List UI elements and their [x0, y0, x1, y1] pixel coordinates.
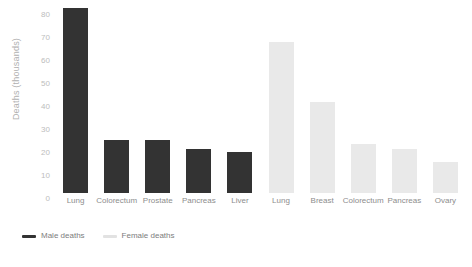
y-axis-ticks: 80706050403020100 [28, 15, 50, 199]
bar-slot [137, 15, 178, 193]
x-axis-labels: LungColorectumProstatePancreasLiverLungB… [55, 197, 466, 211]
bar-chart: Deaths (thousands) 80706050403020100 Lun… [0, 0, 472, 267]
legend-label: Male deaths [41, 232, 85, 240]
legend-item[interactable]: Female deaths [103, 232, 175, 240]
x-axis-label: Colorectum [96, 197, 137, 211]
y-axis-tick: 0 [28, 195, 50, 203]
legend-item[interactable]: Male deaths [22, 232, 85, 240]
bar-slot [260, 15, 301, 193]
bar-slot [219, 15, 260, 193]
x-axis-label: Pancreas [178, 197, 219, 211]
y-axis-tick: 60 [28, 57, 50, 65]
x-axis-label: Colorectum [343, 197, 384, 211]
x-axis-label: Prostate [137, 197, 178, 211]
bar[interactable] [63, 8, 88, 193]
y-axis-tick: 70 [28, 34, 50, 42]
bar-slot [178, 15, 219, 193]
bar[interactable] [186, 149, 211, 194]
y-axis-title: Deaths (thousands) [11, 19, 21, 139]
bar-slot [55, 15, 96, 193]
bar[interactable] [392, 149, 417, 194]
bar[interactable] [351, 144, 376, 193]
bar-slot [425, 15, 466, 193]
bar-group [55, 15, 466, 193]
bar[interactable] [145, 140, 170, 193]
x-axis-label: Lung [55, 197, 96, 211]
y-axis-tick: 30 [28, 126, 50, 134]
bar[interactable] [269, 42, 294, 193]
x-axis-label: Lung [260, 197, 301, 211]
chart-legend: Male deathsFemale deaths [22, 232, 175, 240]
bar-slot [343, 15, 384, 193]
y-axis-tick: 50 [28, 80, 50, 88]
legend-swatch-icon [103, 235, 117, 238]
x-axis-label: Liver [219, 197, 260, 211]
x-axis-label: Pancreas [384, 197, 425, 211]
bar[interactable] [433, 162, 458, 193]
bar-slot [384, 15, 425, 193]
x-axis-label: Ovary [425, 197, 466, 211]
bar[interactable] [227, 152, 252, 193]
x-axis-label: Breast [302, 197, 343, 211]
y-axis-tick: 10 [28, 172, 50, 180]
legend-swatch-icon [22, 235, 36, 238]
bar-slot [96, 15, 137, 193]
legend-label: Female deaths [122, 232, 175, 240]
bar[interactable] [104, 140, 129, 193]
y-axis-tick: 40 [28, 103, 50, 111]
bar[interactable] [310, 102, 335, 193]
plot-area [55, 15, 466, 193]
y-axis-tick: 20 [28, 149, 50, 157]
bar-slot [302, 15, 343, 193]
y-axis-tick: 80 [28, 11, 50, 19]
